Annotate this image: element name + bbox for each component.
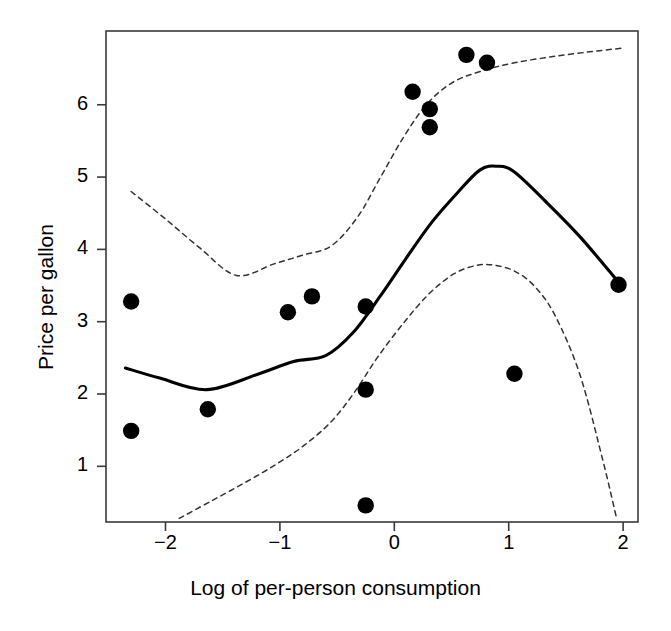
x-axis-title: Log of per-person consumption [0, 576, 671, 600]
y-tick-label: 3 [62, 309, 88, 332]
y-axis-title: Price per gallon [34, 224, 58, 370]
y-tick-label: 4 [62, 236, 88, 259]
x-tick-label: 1 [489, 531, 529, 554]
data-points [123, 47, 627, 514]
x-tick-label: −2 [145, 531, 185, 554]
y-tick-label: 1 [62, 453, 88, 476]
y-tick-label: 5 [62, 164, 88, 187]
y-tick-label: 6 [62, 92, 88, 115]
x-tick-label: −1 [260, 531, 300, 554]
x-tick-label: 0 [374, 531, 414, 554]
chart-figure: Log of per-person consumption Price per … [0, 0, 671, 631]
scatter-plot-canvas [0, 0, 671, 631]
axis-ticks [97, 105, 623, 531]
x-tick-label: 2 [603, 531, 643, 554]
y-tick-label: 2 [62, 381, 88, 404]
confidence-band-lines [131, 48, 621, 518]
plot-frame [106, 31, 638, 522]
fit-line [125, 166, 623, 390]
